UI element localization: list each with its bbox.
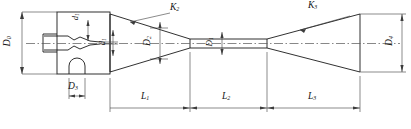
arrow-d1b-dn [111, 50, 114, 56]
arrow-l2-r [260, 106, 267, 109]
label-k2: K2 [170, 3, 179, 13]
arrow-d4-up [400, 14, 403, 21]
converging-cone-lower [110, 48, 190, 72]
arrow-d2-up [158, 22, 161, 28]
arrow-d0-up [20, 12, 24, 19]
label-d0: D0 [2, 36, 13, 46]
label-d1-throat: D1 [205, 37, 215, 46]
diverging-cone-lower [267, 48, 360, 72]
arrow-d1c-dn [220, 49, 223, 55]
leader-k3 [300, 16, 350, 30]
dimension-arrowheads [20, 12, 404, 110]
technical-drawing-canvas: D0 d1 d1 D2 D1 D3 D4 K2 K3 L1 L2 L3 [0, 0, 411, 129]
label-d2: D2 [143, 36, 153, 46]
nozzle-assembly-drawing [0, 0, 411, 129]
inlet-stub [43, 34, 57, 52]
motive-nozzle-lower [44, 44, 100, 50]
bottom-port [69, 58, 85, 74]
label-l3: L3 [308, 92, 316, 102]
label-d1-nozzle-throat: d1 [98, 38, 107, 45]
arrow-d0-dn [20, 67, 24, 74]
arrow-l2-l [190, 106, 197, 109]
label-l2: L2 [222, 92, 230, 102]
arrow-d1c-up [220, 32, 223, 38]
motive-nozzle-upper [44, 36, 100, 42]
arrow-d1a-up [86, 20, 89, 26]
leader-k2 [130, 13, 170, 22]
arrow-d2-dn [158, 58, 161, 64]
arrow-l1-r [183, 106, 190, 109]
arrow-d3-r [79, 94, 85, 97]
arrow-l3-r [353, 106, 360, 109]
label-d4: D4 [385, 36, 395, 46]
arrow-d1b-up [111, 30, 114, 36]
arrow-d3-l [69, 94, 75, 97]
label-k3: K3 [308, 1, 317, 11]
arrow-l3-l [267, 106, 274, 109]
label-d1-upper: d1 [71, 13, 80, 20]
arrow-d4-dn [400, 65, 403, 72]
label-l1: L1 [141, 92, 149, 102]
label-d3: D3 [68, 82, 78, 92]
